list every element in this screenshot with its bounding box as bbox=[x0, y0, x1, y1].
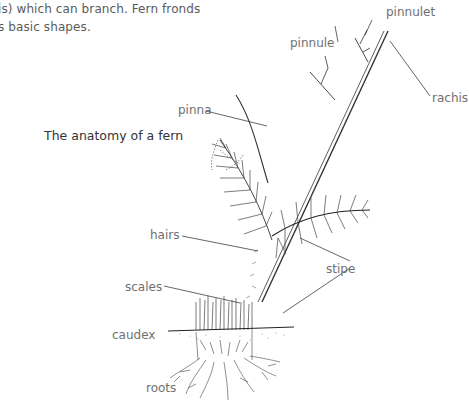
stipe-hairs bbox=[246, 250, 258, 298]
rachis-stem bbox=[236, 30, 388, 302]
label-pinnulet: pinnulet bbox=[386, 5, 435, 19]
label-caudex: caudex bbox=[112, 328, 155, 342]
label-rachis: rachis bbox=[432, 91, 468, 105]
label-hairs: hairs bbox=[150, 228, 179, 242]
soil-stipple bbox=[179, 332, 284, 340]
label-pinnule: pinnule bbox=[290, 36, 334, 50]
caudex-scales bbox=[196, 296, 252, 330]
leader-lines bbox=[164, 20, 430, 313]
roots bbox=[170, 330, 280, 400]
fern-illustration bbox=[0, 0, 469, 402]
label-roots: roots bbox=[146, 381, 176, 395]
label-stipe: stipe bbox=[326, 262, 355, 276]
label-pinna: pinna bbox=[178, 103, 212, 117]
pinna-left bbox=[211, 138, 272, 240]
soil-surface bbox=[168, 327, 294, 331]
label-scales: scales bbox=[125, 280, 162, 294]
